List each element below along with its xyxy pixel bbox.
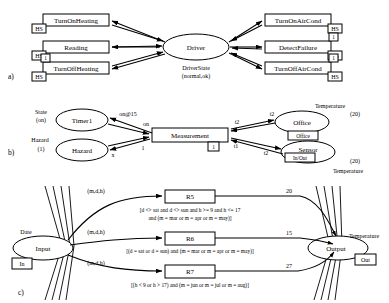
rule-r6-label: R6 [186, 235, 195, 243]
driver-state-value: (normal,ok) [182, 73, 211, 80]
rule-r6-condition-line1: [(d = sat or d = sun) and (m = mar or m … [126, 248, 254, 255]
edge-label-on-at-15: on@15 [119, 111, 137, 117]
rule-r5-weight: 20 [286, 188, 292, 194]
edge-turnoffheating-to-driver [112, 52, 163, 66]
rule-r7-in-label: (m,d,h) [87, 260, 105, 267]
rule-r7[interactable]: R7 [165, 265, 215, 278]
node-office[interactable]: Office Office [275, 111, 329, 140]
state-value: (on) [36, 117, 46, 124]
node-turnoffaircond-label: TurnOffAirCond [274, 65, 322, 73]
edge-input-to-r7 [68, 255, 162, 271]
node-timer1[interactable]: Timer1 [56, 109, 108, 131]
node-turnoffaircond[interactable]: TurnOffAirCond 1 HS [265, 54, 342, 81]
node-measurement-tag: 1 [212, 144, 215, 150]
section-b: b) State (on) Hazard (1) Timer1 Hazard M… [8, 103, 363, 174]
node-office-tag: Office [296, 133, 310, 139]
node-measurement[interactable]: Measurement 1 [152, 128, 228, 151]
rule-r7-label: R7 [186, 268, 195, 276]
node-turnonaircond[interactable]: TurnOnAirCond HS [265, 14, 342, 33]
node-turnoffheating-label: TurnOffHeating [53, 65, 99, 73]
node-turnonaircond-label: TurnOnAirCond [275, 17, 322, 25]
edge-driver-to-turnonaircond [229, 21, 262, 42]
edge-r5-to-output [215, 196, 336, 236]
edge-label-x: x [112, 152, 115, 158]
edge-driver-to-turnoffheating [112, 54, 165, 69]
edge-label-office-t2-out: t2 [270, 111, 275, 117]
edge-turnoffaircond-to-driver [231, 53, 262, 66]
rule-r6[interactable]: R6 [165, 232, 215, 245]
node-input[interactable]: Input In [12, 236, 73, 269]
node-measurement-label: Measurement [171, 132, 209, 140]
input-date-label: Date [20, 229, 32, 235]
node-input-label: Input [36, 245, 51, 253]
node-turnoffheating-tag: HS [35, 74, 43, 80]
node-output-label: Output [326, 245, 346, 253]
edge-turnonheating-to-driver [112, 25, 163, 41]
diagram-canvas: a) TurnOnHeating HS Reading HS TurnOffHe… [0, 0, 389, 303]
rule-r5-in-label: (m,d,h) [87, 188, 105, 195]
rule-r7-weight: 27 [286, 263, 292, 269]
office-temp-value: (20) [350, 111, 360, 118]
office-temp-label: Temperature [315, 103, 346, 109]
edge-sensor-to-meas [231, 140, 283, 154]
rule-r5-condition-line2: and (m = mar or m = apr or m = may)] [148, 215, 231, 222]
node-turnonheating-label: TurnOnHeating [54, 17, 99, 25]
rule-r6-weight: 15 [286, 230, 292, 236]
edge-turnonaircond-to-driver [231, 25, 262, 41]
hazard-annot-value: (1) [38, 146, 45, 153]
node-sensor-tag: In/Out [293, 155, 308, 161]
edge-label-sensor-t2: t2 [264, 150, 269, 156]
edge-driver-to-turnoffaircond [229, 53, 262, 69]
edge-detectfailure-to-driver [232, 48, 262, 49]
edge-label-hazard-1: 1 [142, 145, 145, 151]
rule-r5-condition-line1: [d <> sat and d <> sun and h >= 9 and h … [140, 207, 241, 213]
node-output-tag: Out [361, 257, 370, 263]
sensor-temp-value: (20) [350, 158, 360, 165]
node-turnoffaircond-tag: HS [331, 74, 339, 80]
rule-r5[interactable]: R5 [165, 190, 215, 203]
node-driver[interactable]: Driver [163, 34, 229, 60]
section-c-label: c) [18, 288, 24, 297]
node-turnoffheating[interactable]: TurnOffHeating 1 HS [32, 54, 109, 81]
node-reading-label: Reading [64, 44, 88, 52]
node-turnoffaircond-tag2: 1 [332, 55, 335, 61]
section-a-label: a) [8, 72, 14, 81]
driver-state-label: DriverState [182, 65, 210, 71]
section-b-label: b) [8, 148, 15, 157]
node-hazard[interactable]: Hazard [56, 139, 108, 161]
rule-r6-in-label: (m,d,h) [87, 229, 105, 236]
node-turnonheating[interactable]: TurnOnHeating HS [32, 14, 109, 33]
node-turnoffheating-tag2: 1 [44, 55, 47, 61]
edge-label-sensor-t1: t1 [234, 143, 239, 149]
node-timer1-label: Timer1 [72, 117, 93, 125]
node-hazard-label: Hazard [72, 147, 93, 155]
hazard-annot-label: Hazard [31, 137, 48, 143]
edge-input-to-r6 [70, 238, 162, 245]
node-driver-label: Driver [187, 44, 206, 52]
edge-meas-to-sensor [231, 138, 281, 149]
edge-label-office-t2-in: t2 [235, 119, 240, 125]
sensor-temp-label: Temperature [333, 168, 364, 174]
node-turnonaircond-tag: HS [331, 26, 339, 32]
section-c: c) Input In Date [12, 186, 379, 300]
section-a: a) TurnOnHeating HS Reading HS TurnOffHe… [8, 14, 342, 81]
node-office-label: Office [293, 119, 311, 127]
rule-r5-label: R5 [186, 193, 195, 201]
node-detectfailure-label: DetectFailure [279, 44, 317, 52]
output-temperature-label: Temperature [349, 233, 380, 239]
edge-label-on: on [143, 121, 149, 127]
node-input-tag: In [20, 261, 25, 267]
rule-r7-condition-line1: [(h < 9 or h > 17) and (m = jun or m = j… [131, 282, 249, 289]
node-turnonheating-tag: HS [35, 26, 43, 32]
node-sensor[interactable]: Sensor In/Out [281, 141, 335, 163]
node-detectfailure-tag2: 1 [332, 34, 335, 40]
state-label: State [35, 109, 47, 115]
